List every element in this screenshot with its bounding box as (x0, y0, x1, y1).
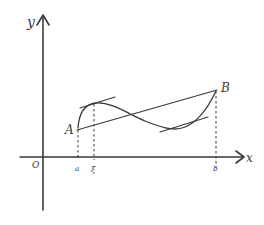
tangent-line-at-trough (160, 117, 208, 132)
x-axis (20, 151, 244, 163)
tick-label-b: b (213, 165, 218, 173)
tick-label-xi: ξ (91, 165, 96, 174)
point-a-label: A (64, 123, 74, 137)
tangent-line-at-xi (80, 97, 115, 108)
origin-label: O (32, 160, 40, 170)
y-axis (37, 15, 49, 210)
x-axis-label: x (246, 151, 253, 165)
secant-line-ab (77, 90, 217, 130)
y-axis-label: y (26, 14, 36, 30)
mean-value-theorem-diagram: y x O A B a ξ b (0, 0, 264, 225)
tick-label-a: a (75, 165, 79, 173)
point-b-label: B (220, 81, 230, 95)
